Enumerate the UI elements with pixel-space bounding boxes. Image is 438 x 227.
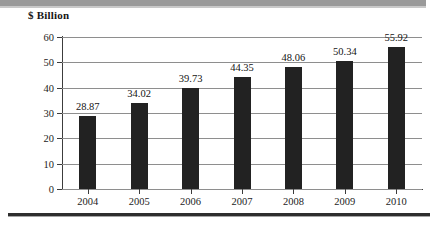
y-axis-title: $ Billion — [28, 9, 69, 21]
scan-top-band-fade — [0, 6, 426, 8]
bar — [79, 116, 96, 189]
y-axis-tick — [57, 164, 62, 165]
plot-area: 0102030405060 28.8734.0239.7344.3548.065… — [62, 37, 422, 189]
y-axis-tick — [57, 37, 62, 38]
x-axis-label: 2007 — [232, 196, 253, 207]
x-axis-tick — [345, 189, 346, 194]
bar-value-label: 39.73 — [179, 73, 203, 84]
bar-value-label: 50.34 — [333, 46, 357, 57]
x-axis-tick — [191, 189, 192, 194]
y-axis-tick — [57, 138, 62, 139]
y-axis-label: 60 — [44, 32, 55, 43]
x-axis-label: 2005 — [129, 196, 150, 207]
bar — [131, 103, 148, 189]
y-axis-tick — [57, 113, 62, 114]
bar — [336, 61, 353, 189]
x-axis-label: 2010 — [386, 196, 407, 207]
bar-value-label: 28.87 — [76, 101, 100, 112]
y-axis-tick — [57, 88, 62, 89]
chart-figure: $ Billion 0102030405060 28.8734.0239.734… — [0, 0, 438, 227]
y-axis-label: 40 — [44, 82, 55, 93]
bar-value-label: 34.02 — [127, 88, 151, 99]
x-axis-tick — [139, 189, 140, 194]
y-axis-label: 30 — [44, 108, 55, 119]
gridline — [62, 37, 422, 38]
x-axis-tick — [88, 189, 89, 194]
x-axis-label: 2009 — [334, 196, 355, 207]
y-axis-label: 0 — [49, 184, 54, 195]
bar-value-label: 48.06 — [282, 52, 306, 63]
bar-value-label: 44.35 — [230, 62, 254, 73]
x-axis-label: 2006 — [180, 196, 201, 207]
bar — [234, 77, 251, 189]
bar — [388, 47, 405, 189]
y-axis-label: 20 — [44, 133, 55, 144]
y-axis-tick — [57, 62, 62, 63]
y-axis-label: 10 — [44, 158, 55, 169]
bar — [182, 88, 199, 189]
x-axis-tick — [242, 189, 243, 194]
x-axis-tick — [396, 189, 397, 194]
bar-value-label: 55.92 — [384, 32, 408, 43]
x-axis-label: 2004 — [77, 196, 98, 207]
bottom-rule-shadow — [8, 216, 430, 217]
x-axis-label: 2008 — [283, 196, 304, 207]
y-axis-tick — [57, 189, 62, 190]
x-axis-tick — [293, 189, 294, 194]
y-axis-label: 50 — [44, 57, 55, 68]
bar — [285, 67, 302, 189]
